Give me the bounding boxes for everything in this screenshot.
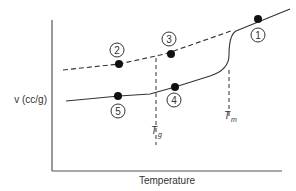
tm-label-main: T <box>224 110 231 121</box>
point-5-label: 5 <box>115 106 121 117</box>
tg-label-main: T <box>151 125 158 136</box>
point-2-dot <box>115 60 123 68</box>
point-2-label: 2 <box>114 45 120 56</box>
point-5-dot <box>114 92 122 100</box>
point-4-label: 4 <box>171 95 177 106</box>
y-axis-label: v (cc/g) <box>14 94 47 105</box>
point-1-dot <box>254 15 262 23</box>
point-1: 1 <box>251 15 265 42</box>
point-1-label: 1 <box>255 30 261 41</box>
x-axis-label: Temperature <box>139 175 196 186</box>
tg-label-sub: g <box>158 131 162 139</box>
specific-volume-diagram: 1 2 3 4 5 v (cc/g) Temperature T g T m <box>0 0 296 191</box>
tm-label-sub: m <box>231 116 237 123</box>
tm-label: T m <box>224 110 237 123</box>
point-3-dot <box>167 50 175 58</box>
point-4: 4 <box>167 83 181 107</box>
point-4-dot <box>171 83 179 91</box>
point-3: 3 <box>162 32 176 58</box>
point-3-label: 3 <box>166 34 172 45</box>
dashed-liquid-line <box>63 31 231 70</box>
